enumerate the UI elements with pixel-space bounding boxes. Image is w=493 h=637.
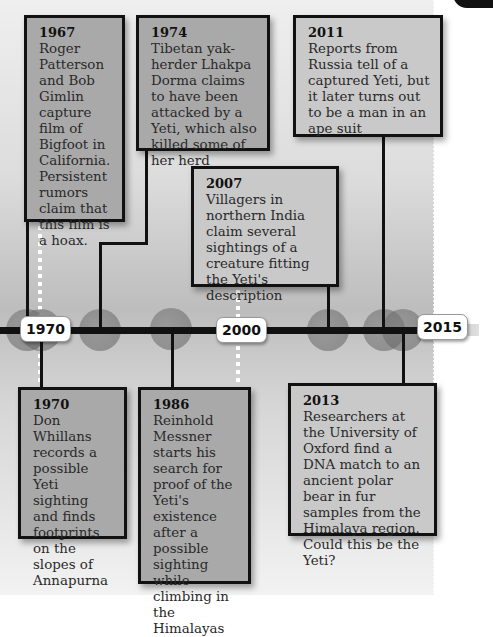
axis-label-2000: 2000 [216,317,267,343]
event-card-1970: 1970 Don Whillans records a possible Yet… [18,387,127,539]
corner-decoration [453,0,493,8]
event-description: Tibetan yak-herder Lhakpa Dorma claims t… [151,41,259,169]
connector-2013 [402,333,405,385]
event-description: Reports from Russia tell of a captured Y… [308,41,432,137]
event-description: Villagers in northern India claim severa… [206,192,328,304]
event-card-2011: 2011 Reports from Russia tell of a captu… [293,15,443,137]
connector-2011 [382,134,385,329]
event-card-2007: 2007 Villagers in northern India claim s… [191,166,339,287]
event-description: Researchers at the University of Oxford … [303,409,426,569]
connector-1974-a [145,148,148,245]
event-card-1974: 1974 Tibetan yak-herder Lhakpa Dorma cla… [136,15,270,151]
event-card-1986: 1986 Reinhold Messner starts his search … [138,387,251,584]
event-description: Reinhold Messner starts his search for p… [153,413,240,637]
event-year: 1986 [153,397,240,413]
event-year: 2013 [303,393,426,409]
axis-label-2015: 2015 [417,314,468,340]
event-description: Roger Patterson and Bob Gimlin capture f… [39,41,114,249]
event-description: Don Whillans records a possible Yeti sig… [33,413,116,589]
event-year: 2007 [206,176,328,192]
connector-1974-c [99,242,102,329]
event-year: 1974 [151,25,259,41]
connector-1967 [26,219,29,329]
event-year: 2011 [308,25,432,41]
event-card-1967: 1967 Roger Patterson and Bob Gimlin capt… [24,15,125,222]
event-year: 1967 [39,25,114,41]
axis-label-1970: 1970 [20,316,71,342]
event-year: 1970 [33,397,116,413]
event-card-2013: 2013 Researchers at the University of Ox… [288,383,437,536]
connector-1986 [171,333,174,389]
